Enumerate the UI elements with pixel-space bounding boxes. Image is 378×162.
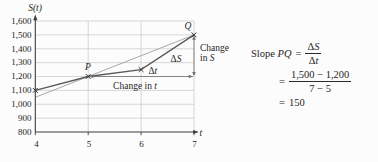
point-label-p: P xyxy=(84,62,91,72)
y-tick-label: 1,400 xyxy=(11,44,32,54)
slope-result: 150 xyxy=(289,97,305,109)
y-tick-label: 1,500 xyxy=(11,30,32,40)
fraction-symbolic-denominator: Δt xyxy=(305,54,321,66)
point-label-q: Q xyxy=(185,21,192,31)
fraction-numeric-denominator: 7 − 5 xyxy=(289,82,351,94)
x-axis-title: t xyxy=(200,128,203,138)
change-in-s-label-line1: Change xyxy=(200,43,229,53)
slope-pq-var: PQ xyxy=(278,48,292,59)
y-tick-label: 1,300 xyxy=(11,57,32,67)
formula-line-1: Slope PQ = ΔS Δt xyxy=(251,41,351,66)
formula-line-2: = 1,500 − 1,200 7 − 5 xyxy=(279,69,351,94)
change-in-s-label-line2: in S xyxy=(200,53,215,63)
fraction-numeric-numerator: 1,500 − 1,200 xyxy=(289,69,351,82)
equals-sign: = xyxy=(279,76,285,88)
delta-s-arrowhead-icon xyxy=(192,72,196,76)
y-tick-label: 900 xyxy=(18,113,32,123)
y-tick-label: 1,100 xyxy=(11,85,32,95)
y-tick-label: 1,600 xyxy=(11,16,32,26)
chart: S(t) t 1,600 1,500 1,400 1,300 1,200 1,1… xyxy=(0,0,250,162)
y-tick-label: 1,000 xyxy=(11,99,32,109)
y-axis-arrow-icon xyxy=(33,15,37,21)
y-tick-label: 800 xyxy=(18,127,32,137)
fraction-symbolic-numerator: ΔS xyxy=(305,41,321,54)
x-axis-arrow-icon xyxy=(193,130,199,134)
equals-sign: = xyxy=(279,97,285,109)
y-tick-label: 1,200 xyxy=(11,71,32,81)
slope-computation: Slope PQ = ΔS Δt = 1,500 − 1,200 7 − 5 =… xyxy=(251,41,351,109)
delta-t-arrowhead-icon xyxy=(189,75,193,79)
x-tick-label: 6 xyxy=(139,139,144,149)
y-axis-title: S(t) xyxy=(28,3,42,14)
fraction-symbolic: ΔS Δt xyxy=(305,41,321,66)
figure-average-rate-of-change: S(t) t 1,600 1,500 1,400 1,300 1,200 1,1… xyxy=(0,0,378,162)
change-in-t-label: Change in t xyxy=(113,81,157,91)
formula-line-3: = 150 xyxy=(279,97,351,109)
x-tick-label: 5 xyxy=(87,139,92,149)
x-tick-label: 4 xyxy=(34,139,39,149)
slope-word: Slope PQ xyxy=(251,48,292,60)
equals-sign: = xyxy=(296,48,302,60)
delta-t-label: Δt xyxy=(149,66,158,76)
delta-s-label: ΔS xyxy=(171,54,182,64)
x-tick-label: 7 xyxy=(192,139,197,149)
fraction-numeric: 1,500 − 1,200 7 − 5 xyxy=(289,69,351,94)
